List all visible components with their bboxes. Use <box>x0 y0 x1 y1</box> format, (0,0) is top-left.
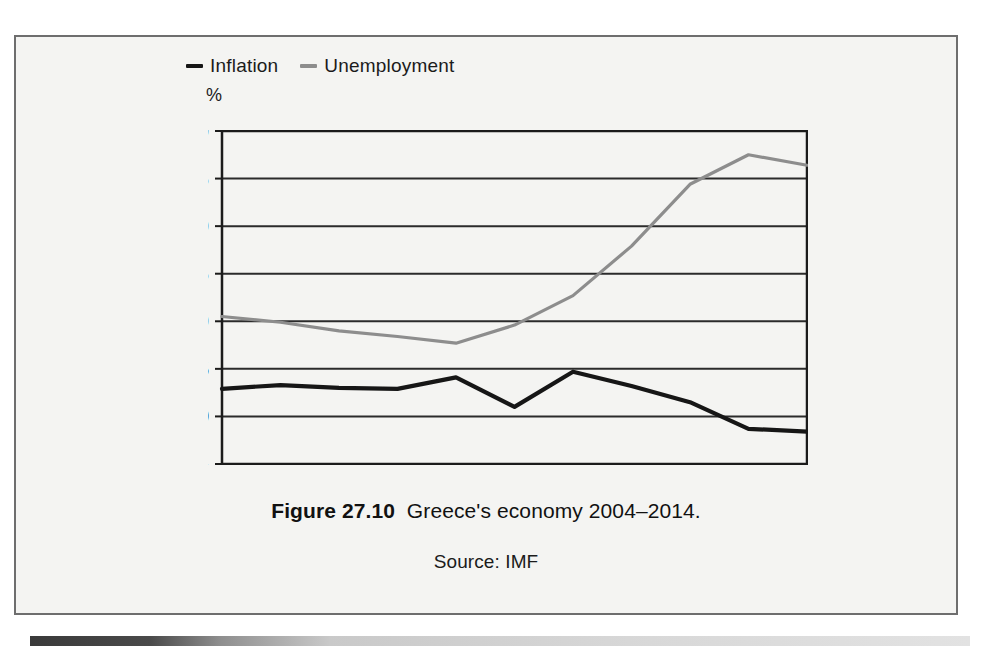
series-line-inflation <box>222 372 807 432</box>
figure-source: Source: IMF <box>16 551 956 573</box>
figure-caption-text: Greece's economy 2004–2014. <box>407 499 701 522</box>
chart-legend: Inflation Unemployment <box>186 55 455 77</box>
legend-swatch-inflation <box>186 64 203 68</box>
y-tick-label-15: 15 <box>208 263 209 285</box>
y-tick-label-5: 5 <box>208 358 209 380</box>
series-lines <box>222 155 807 432</box>
y-tick-label-0: 0 <box>208 405 209 427</box>
legend-swatch-unemployment <box>300 64 317 68</box>
legend-entry-unemployment: Unemployment <box>300 55 454 77</box>
legend-label-inflation: Inflation <box>210 55 278 77</box>
y-tick-label-30: 30 <box>208 130 209 142</box>
y-tick-labels: 302520151050−5 <box>208 130 209 465</box>
legend-label-unemployment: Unemployment <box>324 55 454 77</box>
page-edge-artifact-bar <box>30 636 970 646</box>
line-chart-svg: 302520151050−5 2004050607080920101112132… <box>208 130 808 465</box>
grid-lines <box>222 179 807 417</box>
y-tick-label--5: −5 <box>208 453 209 465</box>
figure-caption: Figure 27.10 Greece's economy 2004–2014. <box>16 499 956 523</box>
y-axis-unit-label: % <box>206 85 222 106</box>
y-tick-label-20: 20 <box>208 215 209 237</box>
figure-caption-label: Figure 27.10 <box>271 499 395 522</box>
series-line-unemployment <box>222 155 807 343</box>
figure-frame: Inflation Unemployment % 302520151050−5 … <box>14 35 958 615</box>
chart-plot-area: 302520151050−5 2004050607080920101112132… <box>208 130 808 465</box>
y-tick-label-25: 25 <box>208 168 209 190</box>
caption-block: Figure 27.10 Greece's economy 2004–2014.… <box>16 499 956 573</box>
legend-entry-inflation: Inflation <box>186 55 278 77</box>
y-tick-label-10: 10 <box>208 310 209 332</box>
